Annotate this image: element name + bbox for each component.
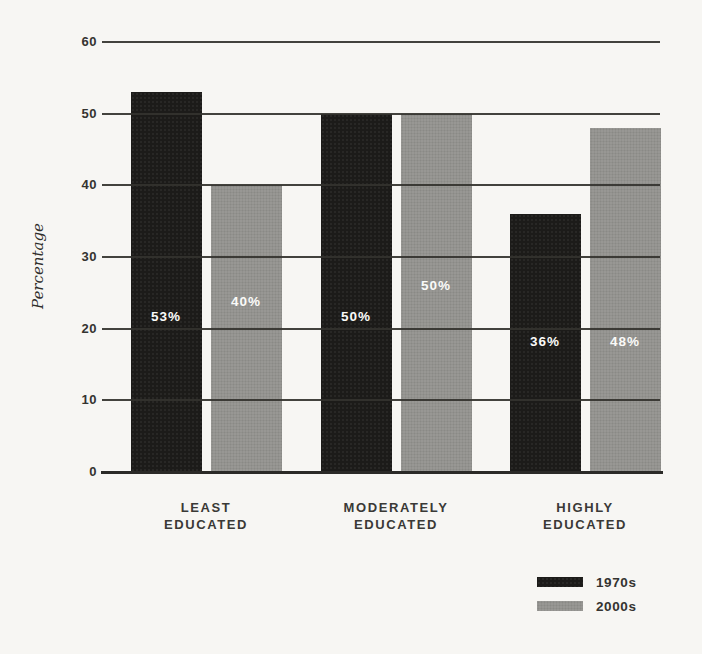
plot-area: 010203040506053%40%LEASTEDUCATED50%50%MO…: [0, 0, 702, 654]
category-label-line: HIGHLY: [543, 499, 627, 516]
category-label-highly-educated: HIGHLYEDUCATED: [543, 499, 627, 533]
category-label-line: EDUCATED: [164, 516, 248, 533]
y-tick-label-50: 50: [38, 105, 97, 123]
legend-label-2000s: 2000s: [596, 599, 637, 614]
value-label-1970s-highly-educated: 36%: [530, 334, 560, 349]
category-label-line: EDUCATED: [543, 516, 627, 533]
legend-label-1970s: 1970s: [596, 575, 637, 590]
bar-chart-figure: 010203040506053%40%LEASTEDUCATED50%50%MO…: [0, 0, 702, 654]
bar-1970s-least-educated: [131, 92, 202, 472]
x-axis-line: [101, 471, 663, 474]
gridline-50: [102, 113, 660, 115]
category-label-least-educated: LEASTEDUCATED: [164, 499, 248, 533]
value-label-1970s-moderately-educated: 50%: [341, 309, 371, 324]
y-axis-title: Percentage: [29, 205, 47, 327]
value-label-1970s-least-educated: 53%: [151, 309, 181, 324]
legend-item-1970s: 1970s: [537, 575, 637, 589]
y-tick-label-60: 60: [38, 33, 97, 51]
legend-swatch-2000s-icon: [537, 601, 583, 611]
y-tick-label-30: 30: [38, 248, 97, 266]
value-label-2000s-moderately-educated: 50%: [421, 278, 451, 293]
gridline-60: [102, 41, 660, 43]
value-label-2000s-least-educated: 40%: [231, 294, 261, 309]
gridline-20: [102, 328, 660, 330]
category-label-moderately-educated: MODERATELYEDUCATED: [344, 499, 449, 533]
legend-swatch-1970s-icon: [537, 577, 583, 587]
bar-2000s-highly-educated: [590, 128, 661, 472]
gridline-30: [102, 256, 660, 258]
value-label-2000s-highly-educated: 48%: [610, 334, 640, 349]
category-label-line: EDUCATED: [344, 516, 449, 533]
y-tick-label-20: 20: [38, 320, 97, 338]
category-label-line: LEAST: [164, 499, 248, 516]
bar-1970s-moderately-educated: [321, 114, 392, 472]
legend: 1970s 2000s: [537, 575, 637, 623]
y-tick-label-10: 10: [38, 391, 97, 409]
y-tick-label-40: 40: [38, 176, 97, 194]
y-tick-label-0: 0: [38, 463, 97, 481]
category-label-line: MODERATELY: [344, 499, 449, 516]
gridline-10: [102, 399, 660, 401]
gridline-40: [102, 184, 660, 186]
legend-item-2000s: 2000s: [537, 599, 637, 613]
